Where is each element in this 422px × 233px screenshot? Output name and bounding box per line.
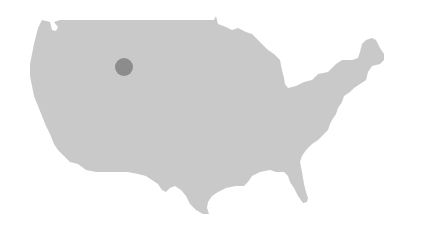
us-map bbox=[0, 0, 422, 233]
location-marker[interactable] bbox=[115, 58, 133, 76]
map-container bbox=[0, 0, 422, 233]
us-landmass bbox=[30, 16, 384, 214]
